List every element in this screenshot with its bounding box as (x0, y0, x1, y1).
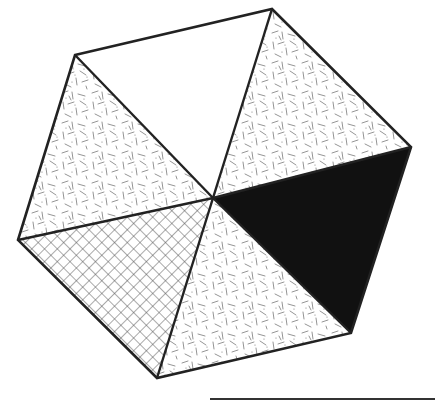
hexagon-diagram (0, 0, 435, 401)
